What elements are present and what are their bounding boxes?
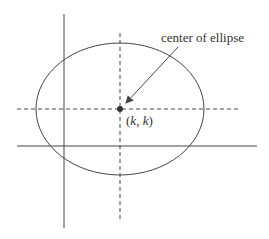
center-point [117, 106, 123, 112]
ellipse-diagram: center of ellipse (k, k) [0, 0, 269, 239]
center-of-ellipse-label: center of ellipse [161, 30, 244, 45]
center-coordinates-label: (k, k) [126, 113, 153, 128]
arrow [126, 47, 178, 103]
